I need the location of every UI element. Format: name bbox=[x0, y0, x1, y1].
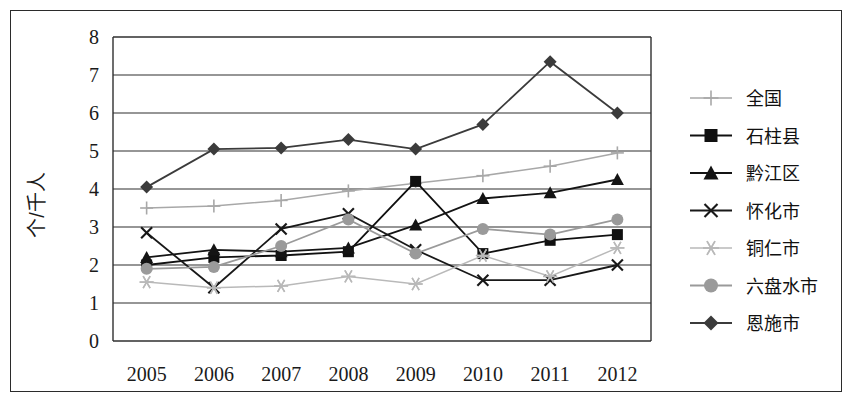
marker-铜仁市-2008 bbox=[341, 270, 355, 282]
marker-怀化市-2005 bbox=[141, 227, 152, 238]
marker-全国-2010 bbox=[476, 169, 489, 182]
marker-全国-2007 bbox=[275, 194, 288, 207]
figure-container: 012345678个/千人200520062007200820092010201… bbox=[0, 0, 850, 402]
marker-恩施市-2007 bbox=[275, 141, 288, 154]
legend-item-恩施市[interactable]: 恩施市 bbox=[690, 314, 800, 334]
marker-铜仁市-2009 bbox=[409, 278, 423, 290]
marker-铜仁市-2012 bbox=[610, 242, 624, 254]
marker-全国-2011 bbox=[544, 160, 557, 173]
x-tick-label-2007: 2007 bbox=[261, 363, 301, 385]
series-恩施市 bbox=[140, 55, 624, 193]
legend: 全国石柱县黔江区怀化市铜仁市六盘水市恩施市 bbox=[690, 89, 818, 334]
marker-铜仁市-2007 bbox=[274, 280, 288, 292]
y-tick-label-8: 8 bbox=[89, 26, 99, 48]
marker-恩施市-2009 bbox=[409, 143, 422, 156]
legend-marker-六盘水市 bbox=[704, 279, 718, 293]
y-tick-label-1: 1 bbox=[89, 292, 99, 314]
legend-marker-石柱县 bbox=[705, 129, 718, 142]
legend-label-黔江区: 黔江区 bbox=[746, 164, 800, 184]
x-tick-label-2012: 2012 bbox=[597, 363, 637, 385]
marker-六盘水市-2005 bbox=[141, 263, 153, 275]
marker-六盘水市-2011 bbox=[544, 229, 556, 241]
legend-item-石柱县[interactable]: 石柱县 bbox=[690, 127, 800, 147]
legend-label-怀化市: 怀化市 bbox=[746, 202, 800, 222]
marker-全国-2006 bbox=[207, 200, 220, 213]
y-tick-label-5: 5 bbox=[89, 140, 99, 162]
legend-item-全国[interactable]: 全国 bbox=[690, 89, 782, 109]
x-tick-label-2011: 2011 bbox=[530, 363, 569, 385]
y-axis-label: 个/千人 bbox=[26, 172, 48, 238]
legend-label-石柱县: 石柱县 bbox=[746, 127, 800, 147]
legend-item-怀化市[interactable]: 怀化市 bbox=[690, 202, 800, 222]
legend-marker-恩施市 bbox=[704, 316, 719, 331]
line-chart: 012345678个/千人200520062007200820092010201… bbox=[0, 0, 850, 402]
y-tick-label-3: 3 bbox=[89, 216, 99, 238]
marker-黔江区-2009 bbox=[409, 219, 422, 231]
marker-六盘水市-2006 bbox=[208, 261, 220, 273]
legend-label-恩施市: 恩施市 bbox=[746, 314, 800, 334]
x-tick-label-2009: 2009 bbox=[396, 363, 436, 385]
legend-label-六盘水市: 六盘水市 bbox=[746, 277, 818, 297]
marker-铜仁市-2005 bbox=[140, 276, 154, 288]
series-line-恩施市 bbox=[147, 62, 618, 187]
y-tick-label-6: 6 bbox=[89, 102, 99, 124]
legend-label-全国: 全国 bbox=[746, 89, 782, 109]
y-tick-label-4: 4 bbox=[89, 178, 99, 200]
legend-marker-全国 bbox=[704, 91, 719, 106]
legend-marker-铜仁市 bbox=[703, 241, 719, 255]
y-tick-label-0: 0 bbox=[89, 330, 99, 352]
legend-label-铜仁市: 铜仁市 bbox=[746, 239, 800, 259]
series-line-全国 bbox=[147, 153, 618, 208]
marker-全国-2008 bbox=[342, 184, 355, 197]
x-tick-label-2006: 2006 bbox=[194, 363, 234, 385]
legend-item-黔江区[interactable]: 黔江区 bbox=[690, 164, 800, 184]
marker-全国-2005 bbox=[140, 202, 153, 215]
y-tick-label-7: 7 bbox=[89, 64, 99, 86]
marker-六盘水市-2008 bbox=[342, 213, 354, 225]
marker-黔江区-2012 bbox=[611, 173, 624, 185]
x-tick-label-2010: 2010 bbox=[463, 363, 503, 385]
marker-石柱县-2012 bbox=[612, 229, 623, 240]
legend-item-六盘水市[interactable]: 六盘水市 bbox=[690, 277, 818, 297]
marker-石柱县-2009 bbox=[410, 176, 421, 187]
marker-恩施市-2006 bbox=[207, 143, 220, 156]
x-tick-label-2005: 2005 bbox=[127, 363, 167, 385]
x-tick-label-2008: 2008 bbox=[328, 363, 368, 385]
marker-六盘水市-2012 bbox=[611, 213, 623, 225]
marker-六盘水市-2010 bbox=[477, 223, 489, 235]
marker-六盘水市-2007 bbox=[275, 240, 287, 252]
marker-恩施市-2005 bbox=[140, 181, 153, 194]
x-axis-labels: 20052006200720082009201020112012 bbox=[127, 363, 638, 385]
marker-全国-2012 bbox=[611, 146, 624, 159]
legend-item-铜仁市[interactable]: 铜仁市 bbox=[690, 239, 800, 259]
marker-恩施市-2008 bbox=[342, 133, 355, 146]
marker-六盘水市-2009 bbox=[410, 248, 422, 260]
y-tick-label-2: 2 bbox=[89, 254, 99, 276]
series-全国 bbox=[140, 146, 624, 214]
